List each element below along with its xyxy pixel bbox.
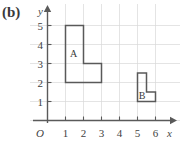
figure-container: (b) [0,0,187,144]
shape-a-label: A [70,48,78,59]
gridlines [30,4,180,121]
y-tick-label-3: 3 [38,58,44,70]
x-tick-label-5: 5 [135,127,141,139]
x-tick-label-1: 1 [63,127,69,139]
y-tick-label-2: 2 [38,77,44,89]
coordinate-plane: 1 2 3 4 5 6 1 2 3 4 5 O x y A B [0,0,187,144]
shape-b-label: B [139,90,146,101]
x-axis-arrow [170,117,177,124]
origin-label: O [36,127,44,139]
x-tick-label-2: 2 [81,127,87,139]
y-axis-arrow [44,5,51,12]
x-tick-label-6: 6 [153,127,159,139]
x-axis-label: x [166,127,172,139]
x-tick-label-4: 4 [117,127,123,139]
y-tick-label-5: 5 [38,20,44,32]
y-tick-label-1: 1 [38,96,44,108]
y-tick-label-4: 4 [38,39,44,51]
y-axis-label: y [37,5,43,17]
x-tick-label-3: 3 [99,127,105,139]
